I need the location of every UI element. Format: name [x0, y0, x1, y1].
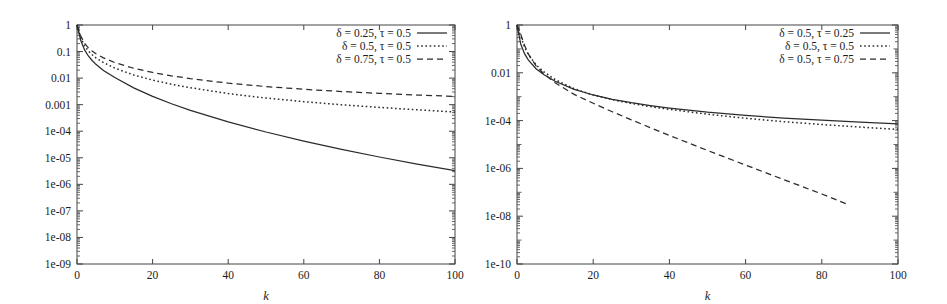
x-axis-title: k — [705, 289, 711, 303]
legend-label-2: δ = 0.5, τ = 0.5 — [785, 40, 854, 53]
x-axis-tick-label: 40 — [222, 269, 234, 281]
x-axis-tick-label: 100 — [446, 269, 464, 281]
chart-panel-left: 02040608010010.10.010.0011e-041e-051e-06… — [0, 0, 474, 304]
x-axis-tick-label: 20 — [147, 269, 159, 281]
figure-two-panel-log-decay-plots: 02040608010010.10.010.0011e-041e-051e-06… — [0, 0, 947, 304]
y-axis-tick-label: 1 — [505, 19, 511, 31]
x-axis-tick-label: 80 — [374, 269, 386, 281]
x-axis-tick-label: 40 — [664, 269, 676, 281]
x-axis-tick-label: 80 — [816, 269, 828, 281]
chart-svg-left: 02040608010010.10.010.0011e-041e-051e-06… — [0, 0, 474, 304]
y-axis-tick-label: 1e-07 — [45, 205, 71, 217]
x-axis-tick-label: 100 — [889, 269, 907, 281]
x-axis-tick-label: 20 — [587, 269, 599, 281]
legend-label-3: δ = 0.75, τ = 0.5 — [336, 53, 411, 66]
x-axis-tick-label: 0 — [514, 269, 520, 281]
x-axis-tick-label: 60 — [298, 269, 310, 281]
y-axis-tick-label: 0.01 — [491, 67, 511, 79]
y-axis-tick-label: 1e-05 — [45, 152, 71, 164]
y-axis-tick-label: 1e-08 — [485, 210, 511, 222]
y-axis-tick-label: 1e-04 — [485, 115, 511, 127]
y-axis-tick-label: 1e-08 — [45, 231, 71, 243]
legend-label-1: δ = 0.25, τ = 0.5 — [336, 27, 411, 40]
x-axis-title: k — [263, 289, 269, 303]
y-axis-tick-label: 0.001 — [45, 99, 71, 111]
y-axis-tick-label: 0.01 — [51, 72, 71, 84]
chart-panel-right: 02040608010010.011e-041e-061e-081e-10kδ … — [474, 0, 947, 304]
y-axis-tick-label: 1e-06 — [45, 178, 71, 190]
x-axis-tick-label: 0 — [74, 269, 80, 281]
x-axis-tick-label: 60 — [740, 269, 752, 281]
legend-label-2: δ = 0.5, τ = 0.5 — [342, 40, 411, 53]
y-axis-tick-label: 0.1 — [57, 46, 72, 58]
y-axis-tick-label: 1e-10 — [485, 258, 511, 270]
y-axis-tick-label: 1e-06 — [485, 162, 511, 174]
y-axis-tick-label: 1e-04 — [45, 125, 71, 137]
chart-svg-right: 02040608010010.011e-041e-061e-081e-10kδ … — [474, 0, 947, 304]
legend-label-3: δ = 0.5, τ = 0.75 — [779, 53, 854, 66]
legend-label-1: δ = 0.5, τ = 0.25 — [779, 27, 854, 40]
y-axis-tick-label: 1 — [65, 19, 71, 31]
y-axis-tick-label: 1e-09 — [45, 258, 71, 270]
